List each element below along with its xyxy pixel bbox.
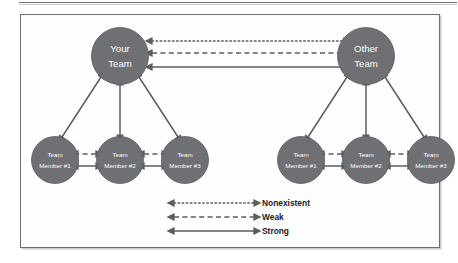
right-member-1-circle[interactable] [278, 137, 325, 184]
node-right-member-1[interactable]: Team Member #1 [278, 137, 325, 184]
right-member-3-circle[interactable] [408, 137, 455, 184]
your-team-circle[interactable] [92, 28, 149, 85]
left-member-2-circle[interactable] [97, 137, 144, 184]
node-your-team[interactable]: Your Team [92, 28, 149, 85]
page-top-rule-shadow [19, 4, 457, 5]
left-member-3-circle[interactable] [162, 137, 209, 184]
node-left-member-1[interactable]: Team Member #1 [32, 137, 79, 184]
node-left-member-3[interactable]: Team Member #3 [162, 137, 209, 184]
other-team-circle[interactable] [338, 28, 395, 85]
right-member-2-circle[interactable] [343, 137, 390, 184]
node-left-member-2[interactable]: Team Member #2 [97, 137, 144, 184]
node-right-member-2[interactable]: Team Member #2 [343, 137, 390, 184]
node-right-member-3[interactable]: Team Member #3 [408, 137, 455, 184]
left-member-1-circle[interactable] [32, 137, 79, 184]
node-other-team[interactable]: Other Team [338, 28, 395, 85]
